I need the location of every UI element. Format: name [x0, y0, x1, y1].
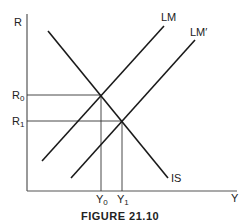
- y0-label: Y0: [96, 193, 108, 207]
- is-curve: [48, 31, 168, 178]
- y-axis-label: R: [14, 16, 22, 28]
- x-axis-label: Y: [231, 192, 239, 204]
- r1-label: R1: [12, 115, 25, 129]
- r0-label: R0: [12, 89, 25, 103]
- islm-diagram: R Y R0 R1 Y0 Y1 LM LM′ IS FIGURE 21.10: [0, 0, 249, 224]
- lm-prime-label: LM′: [190, 26, 207, 38]
- figure-caption: FIGURE 21.10: [81, 210, 159, 222]
- y1-label: Y1: [117, 193, 129, 207]
- lm-label: LM: [161, 11, 176, 23]
- is-label: IS: [171, 172, 181, 184]
